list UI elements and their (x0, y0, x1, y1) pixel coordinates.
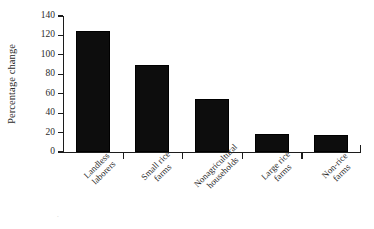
x-axis-label: Large ricefarms (259, 149, 299, 189)
y-axis-line (63, 16, 64, 153)
x-axis-label: Landlesslaborers (81, 151, 118, 188)
y-axis-tick (58, 132, 63, 133)
x-axis-label: Non-ricefarms (320, 151, 357, 188)
y-axis-tick-label: 140 (31, 11, 55, 21)
y-axis-tick (58, 113, 63, 114)
y-axis-tick (58, 35, 63, 36)
x-axis-end-cap (360, 145, 361, 153)
y-axis-tick-label: 60 (31, 89, 55, 99)
y-axis-tick (58, 15, 63, 16)
scan-artifact: . (57, 213, 61, 218)
plot-area: 020406080100120140 LandlesslaborersSmall… (0, 0, 374, 229)
bar-chart-figure: Percentage change 020406080100120140 Lan… (0, 0, 374, 229)
x-axis-label: Small ricefarms (139, 149, 179, 189)
y-axis-tick-label: 20 (31, 128, 55, 138)
y-axis-tick (58, 54, 63, 55)
bar (195, 99, 229, 152)
bar (135, 65, 169, 152)
y-axis-tick-label: 100 (31, 50, 55, 60)
y-axis-tick-label: 80 (31, 69, 55, 79)
y-axis-tick-label: 40 (31, 108, 55, 118)
x-axis-tick (301, 153, 302, 159)
x-axis-tick (182, 153, 183, 159)
y-axis-tick (58, 74, 63, 75)
y-axis-tick-label: 120 (31, 30, 55, 40)
bar (76, 31, 110, 152)
y-axis-tick-label: 0 (31, 147, 55, 157)
y-axis-tick (58, 93, 63, 94)
x-axis-tick (123, 153, 124, 159)
y-axis-tick (58, 151, 63, 152)
bar (314, 135, 348, 152)
